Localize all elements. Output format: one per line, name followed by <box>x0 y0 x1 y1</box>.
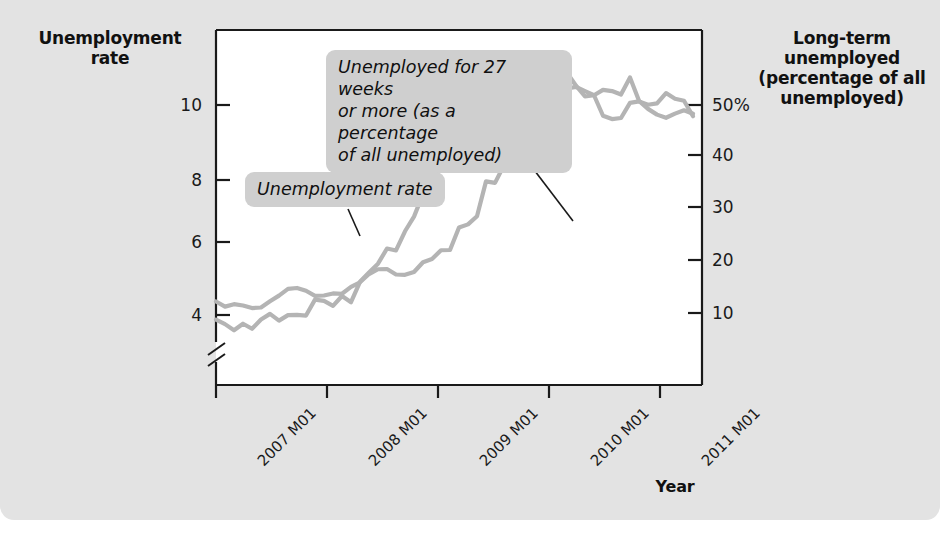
left-tick-label-8: 8 <box>162 170 202 190</box>
left-tick-label-6: 6 <box>162 232 202 252</box>
callout-long-term-unemployed: Unemployed for 27 weeks or more (as a pe… <box>326 50 572 173</box>
left-tick-label-10: 10 <box>162 95 202 115</box>
right-tick-label-20: 20 <box>712 250 762 270</box>
figure-panel: Unemployment rate Long-term unemployed (… <box>0 0 940 520</box>
callout-unemployment-rate: Unemployment rate <box>245 172 445 207</box>
right-tick-label-10: 10 <box>712 303 762 323</box>
right-tick-label-50: 50% <box>712 95 762 115</box>
right-tick-label-30: 30 <box>712 197 762 217</box>
right-tick-label-40: 40 <box>712 145 762 165</box>
x-axis-ticks <box>216 385 660 398</box>
left-tick-label-4: 4 <box>162 305 202 325</box>
